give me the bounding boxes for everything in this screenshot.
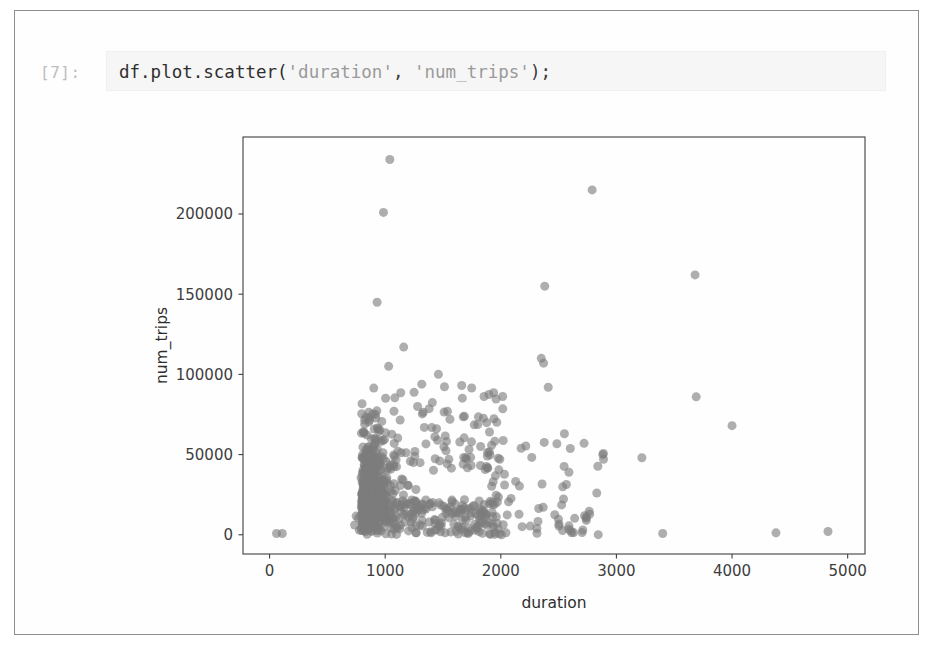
scatter-point (593, 462, 602, 471)
scatter-point (499, 436, 508, 445)
scatter-point (540, 438, 549, 447)
scatter-point (367, 502, 376, 511)
scatter-point (500, 480, 509, 489)
figure-output-area: 0100020003000400050000500001000001500002… (15, 106, 920, 626)
scatter-point (588, 185, 597, 194)
scatter-point (385, 155, 394, 164)
scatter-point (404, 481, 413, 490)
scatter-point (381, 428, 390, 437)
scatter-point (369, 384, 378, 393)
y-tick-label: 0 (223, 526, 233, 544)
scatter-point (488, 508, 497, 517)
scatter-point (580, 439, 589, 448)
x-tick-label: 0 (265, 562, 275, 580)
scatter-point (447, 464, 456, 473)
scatter-point (534, 504, 543, 513)
scatter-point (500, 470, 509, 479)
y-tick-label: 100000 (176, 366, 233, 384)
scatter-point (511, 477, 520, 486)
code-token-2: , (393, 62, 414, 82)
scatter-point (411, 485, 420, 494)
scatter-point (458, 394, 467, 403)
scatter-point (400, 499, 409, 508)
x-tick-label: 5000 (829, 562, 867, 580)
scatter-point (544, 383, 553, 392)
scatter-point (382, 466, 391, 475)
scatter-point (411, 498, 420, 507)
scatter-point (592, 489, 601, 498)
scatter-point (460, 412, 469, 421)
scatter-point (504, 497, 513, 506)
scatter-point (434, 370, 443, 379)
notebook-cell: [7]: df.plot.scatter('duration', 'num_tr… (15, 11, 918, 634)
scatter-point (637, 453, 646, 462)
scatter-point (354, 514, 363, 523)
scatter-point (560, 429, 569, 438)
scatter-point (434, 498, 443, 507)
scatter-point (467, 383, 476, 392)
scatter-point (527, 453, 536, 462)
scatter-point (384, 362, 393, 371)
scatter-point (363, 530, 372, 539)
scatter-point (429, 466, 438, 475)
scatter-point (532, 529, 541, 538)
scatter-point (473, 420, 482, 429)
scatter-point (594, 530, 603, 539)
code-token-3: 'num_trips' (414, 62, 530, 82)
scatter-point (397, 474, 406, 483)
code-token-4: ); (530, 62, 551, 82)
scatter-point (490, 437, 499, 446)
scatter-point (481, 465, 490, 474)
scatter-point (503, 510, 512, 519)
scatter-point (485, 447, 494, 456)
scatter-point (515, 510, 524, 519)
scatter-point (386, 509, 395, 518)
scatter-point (379, 497, 388, 506)
x-tick-label: 2000 (482, 562, 520, 580)
scatter-point (554, 519, 563, 528)
scatter-point (728, 421, 737, 430)
scatter-point (399, 343, 408, 352)
scatter-plot-figure: 0100020003000400050000500001000001500002… (15, 106, 920, 626)
scatter-point (460, 495, 469, 504)
scatter-point (498, 404, 507, 413)
scatter-point (494, 454, 503, 463)
y-tick-label: 50000 (185, 446, 233, 464)
scatter-point (413, 402, 422, 411)
scatter-point (372, 406, 381, 415)
scatter-point (425, 500, 434, 509)
scatter-point (564, 521, 573, 530)
scatter-point (437, 518, 446, 527)
scatter-point (402, 448, 411, 457)
scatter-point (539, 359, 548, 368)
scatter-point (445, 415, 454, 424)
code-source-line: df.plot.scatter('duration', 'num_trips')… (119, 60, 551, 84)
cell-execution-count: [7]: (40, 63, 81, 82)
scatter-point (379, 481, 388, 490)
scatter-point (521, 441, 530, 450)
code-input-cell[interactable]: df.plot.scatter('duration', 'num_trips')… (106, 51, 886, 91)
scatter-point (494, 525, 503, 534)
scatter-point (453, 522, 462, 531)
scatter-point (540, 282, 549, 291)
scatter-point (465, 445, 474, 454)
scatter-point (396, 416, 405, 425)
scatter-point (357, 473, 366, 482)
scatter-point (658, 529, 667, 538)
scatter-point (599, 449, 608, 458)
scatter-point (421, 439, 430, 448)
scatter-point (417, 380, 426, 389)
scatter-point (460, 433, 469, 442)
y-tick-label: 200000 (176, 205, 233, 223)
x-tick-label: 1000 (366, 562, 404, 580)
scatter-point (558, 482, 567, 491)
scatter-point (379, 208, 388, 217)
scatter-point (399, 491, 408, 500)
scatter-point (824, 527, 833, 536)
scatter-point (278, 529, 287, 538)
scatter-point (378, 514, 387, 523)
code-token-0: df.plot.scatter( (119, 62, 288, 82)
scatter-point (381, 394, 390, 403)
scatter-point (360, 428, 369, 437)
scatter-point (357, 499, 366, 508)
